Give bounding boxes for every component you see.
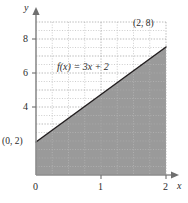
x-axis-label: x [177,181,181,191]
y-axis-label: y [24,3,28,13]
endpoint-point-label: (2, 8) [133,19,154,29]
y-tick-label-8: 8 [23,34,28,44]
x-tick-label-0: 0 [33,182,38,192]
x-tick-label-2: 2 [163,182,168,192]
function-equation-label: f(x) = 3x + 2 [57,62,109,72]
linear-function-graph [0,0,188,203]
x-tick-label-1: 1 [98,182,103,192]
y-axis-arrow-icon [32,7,39,15]
x-axis-arrow-icon [171,171,179,178]
graph-figure: y x 8 6 4 0 1 2 (0, 2) (2, 8) f(x) = 3x … [0,0,188,203]
y-tick-label-4: 4 [23,102,28,112]
y-tick-label-6: 6 [23,68,28,78]
y-intercept-point-label: (0, 2) [2,137,23,147]
